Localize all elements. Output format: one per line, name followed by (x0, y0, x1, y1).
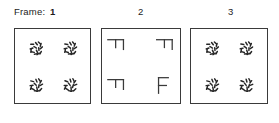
dot-element (68, 83, 70, 85)
dot-element (249, 79, 250, 82)
frame-number-3: 3 (228, 6, 233, 18)
dot-cluster-group-1 (30, 42, 77, 91)
dot-cluster-group-3 (206, 42, 253, 91)
dot-element (39, 79, 41, 81)
dot-element (73, 79, 74, 82)
dot-element (216, 47, 218, 49)
dot-element (34, 46, 36, 48)
dot-element (74, 84, 77, 85)
frame-number-1: 1 (50, 6, 55, 18)
dot-element (31, 81, 34, 82)
letter-shape-bottom-left (108, 80, 124, 90)
letter-shape-top-right (157, 40, 173, 50)
dot-element (206, 48, 209, 49)
dot-element (246, 79, 247, 82)
dot-element (30, 48, 33, 49)
dot-element (66, 88, 68, 90)
dot-element (70, 42, 71, 45)
dot-element (66, 52, 69, 53)
letter-shape-canvas (102, 29, 180, 103)
dot-element (249, 42, 251, 44)
dot-element (36, 50, 37, 53)
dot-element (213, 87, 214, 90)
letter-shape-group (108, 40, 172, 94)
dot-element (65, 81, 68, 82)
dot-element (207, 88, 210, 89)
dot-element (68, 46, 70, 48)
dot-element (40, 84, 43, 85)
dot-element (73, 42, 75, 44)
dot-element (242, 52, 245, 53)
dot-element (216, 84, 219, 85)
dot-element (40, 51, 41, 54)
dot-element (31, 88, 34, 89)
frame-panel-1 (14, 28, 91, 104)
dot-element (207, 52, 210, 53)
dot-element (64, 48, 67, 49)
dot-element (241, 49, 242, 52)
dot-element (36, 79, 37, 82)
dot-element (71, 50, 72, 53)
dot-element (210, 83, 212, 85)
dot-element (247, 91, 250, 92)
dot-element (34, 83, 36, 85)
dot-element (212, 50, 213, 53)
dot-element (241, 81, 244, 82)
frame-panel-3 (190, 28, 268, 104)
dot-element (65, 49, 66, 52)
dot-element (73, 85, 74, 88)
frame-number-2: 2 (138, 6, 143, 18)
dot-cluster-canvas-3 (191, 29, 267, 103)
dot-element (249, 85, 250, 88)
dot-element (207, 81, 210, 82)
dot-element (214, 42, 216, 44)
dot-element (250, 47, 252, 49)
dot-element (212, 79, 213, 82)
dot-cluster-canvas-1 (15, 29, 90, 103)
letter-shape-top-left (108, 40, 124, 50)
dot-element (37, 90, 40, 91)
dot-element (70, 79, 71, 82)
dot-element (38, 42, 40, 44)
dot-element (216, 51, 217, 54)
dot-element (242, 88, 244, 90)
dot-element (74, 47, 76, 49)
dot-element (30, 87, 31, 90)
dot-element (213, 90, 216, 91)
frame-sequence-figure: Frame: 1 2 3 Dur: 400 T 400 (0, 0, 279, 123)
dot-element (244, 46, 246, 48)
dot-element (244, 83, 246, 85)
dot-element (240, 48, 243, 49)
duration-row: Dur: 400 T 400 (0, 106, 279, 123)
frame-number-row: Frame: 1 2 3 (0, 3, 279, 21)
dot-element (40, 47, 42, 49)
dot-element (246, 42, 247, 45)
dot-element (31, 52, 34, 53)
dot-element (36, 42, 38, 44)
frame-panel-2 (101, 28, 181, 104)
dot-element (207, 87, 208, 90)
dot-element (71, 91, 74, 92)
dot-element (247, 50, 248, 53)
dot-element (210, 46, 212, 48)
letter-shape-bottom-right (159, 78, 169, 94)
dot-element (37, 87, 38, 90)
dot-element (215, 79, 217, 81)
dot-element (212, 42, 214, 44)
frame-row-label: Frame: (14, 6, 45, 18)
dot-element (250, 84, 253, 85)
